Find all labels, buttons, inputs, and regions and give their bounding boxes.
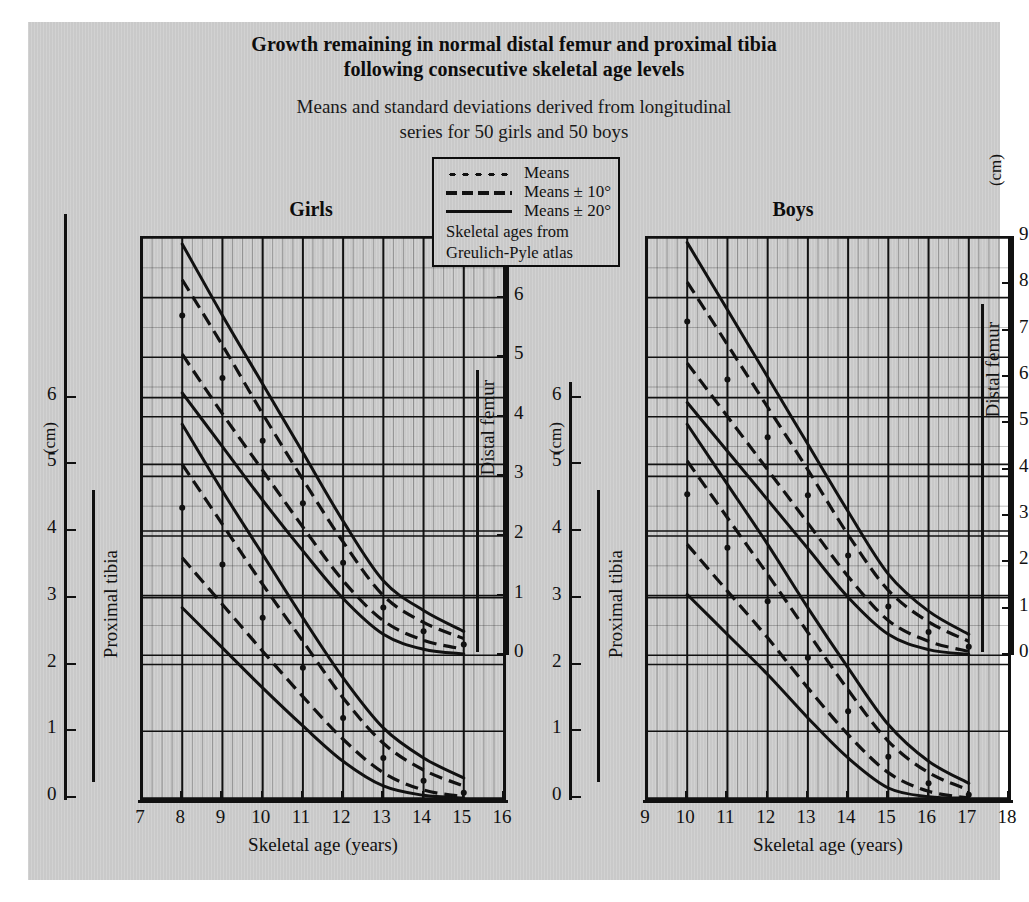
left-axis-tick	[572, 529, 581, 531]
x-axis-tick-label: 10	[245, 806, 277, 828]
x-axis-tick-label: 7	[124, 806, 156, 828]
x-axis-tick	[967, 791, 969, 800]
right-axis-tick	[497, 534, 506, 536]
left-axis-tick	[67, 396, 76, 398]
left-axis-tick-label: 0	[552, 783, 562, 805]
x-axis-tick-label: 10	[669, 806, 701, 828]
right-axis-tick-label: 5	[1019, 408, 1029, 430]
left-axis-tick	[67, 663, 76, 665]
x-axis-tick	[140, 791, 142, 800]
figure-subtitle-line-1: Means and standard deviations derived fr…	[28, 94, 1000, 119]
x-axis-tick	[1007, 791, 1009, 800]
left-axis-tick	[572, 663, 581, 665]
right-axis-tick	[497, 653, 506, 655]
left-axis-tick-label: 1	[552, 716, 562, 738]
left-axis-tick	[572, 396, 581, 398]
left-axis-tick-label: 2	[552, 650, 562, 672]
right-axis-tick-label: 1	[1019, 594, 1029, 616]
right-axis-tick-label: 4	[1019, 455, 1029, 477]
boys-curves	[647, 238, 1009, 798]
right-axis-tick	[497, 296, 506, 298]
figure-subtitle: Means and standard deviations derived fr…	[28, 94, 1000, 144]
x-axis-tick-label: 17	[951, 806, 983, 828]
right-axis-tick-label: 5	[514, 342, 524, 364]
x-axis-tick	[766, 791, 768, 800]
x-axis-tick	[846, 791, 848, 800]
legend-note-line-2: Greulich-Pyle atlas	[446, 242, 573, 263]
left-axis-tick	[572, 462, 581, 464]
panel-heading-boys: Boys	[728, 198, 858, 221]
boys-right-group-label: Distal femur	[982, 322, 1004, 418]
left-axis-tick	[572, 596, 581, 598]
x-axis-tick	[927, 791, 929, 800]
x-axis-tick-label: 18	[991, 806, 1023, 828]
figure-title: Growth remaining in normal distal femur …	[28, 32, 1000, 82]
left-axis-tick-label: 0	[47, 783, 57, 805]
x-axis-tick	[725, 791, 727, 800]
boys-proximal-tibia-brace	[597, 490, 600, 782]
right-axis-tick-label: 3	[514, 461, 524, 483]
x-axis-tick-label: 8	[164, 806, 196, 828]
left-axis-tick-label: 6	[552, 383, 562, 405]
right-axis-rule	[1011, 236, 1014, 655]
right-axis-tick	[1002, 468, 1011, 470]
right-axis-tick-label: 1	[514, 581, 524, 603]
legend-sample-solid-icon	[444, 203, 516, 221]
x-axis-tick-label: 11	[709, 806, 741, 828]
legend-label-means-plus-10: Means ± 10°	[524, 182, 611, 202]
x-axis-tick-label: 12	[325, 806, 357, 828]
right-axis-tick	[1002, 653, 1011, 655]
left-axis-tick	[67, 596, 76, 598]
left-axis-tick	[67, 529, 76, 531]
x-axis-tick	[806, 791, 808, 800]
right-axis-tick	[1002, 282, 1011, 284]
right-axis-tick	[1002, 607, 1011, 609]
x-axis-tick	[645, 791, 647, 800]
x-axis-tick-label: 14	[830, 806, 862, 828]
right-axis-tick	[1002, 236, 1011, 238]
left-axis-tick-label: 3	[552, 583, 562, 605]
x-axis-tick	[220, 791, 222, 800]
figure-page: Growth remaining in normal distal femur …	[28, 22, 1000, 880]
x-axis-tick	[301, 791, 303, 800]
x-axis-tick-label: 15	[870, 806, 902, 828]
right-axis-tick	[1002, 514, 1011, 516]
girls-left-group-label: Proximal tibia	[100, 550, 122, 658]
girls-outer-left-axis	[64, 214, 67, 800]
legend-box: Means Means ± 10° Means ± 20° Skeletal a…	[432, 157, 620, 267]
x-axis-tick-label: 16	[911, 806, 943, 828]
right-axis-tick-label: 7	[1019, 316, 1029, 338]
panel-heading-girls: Girls	[246, 198, 376, 221]
x-axis-tick	[502, 791, 504, 800]
right-axis-tick-label: 2	[1019, 547, 1029, 569]
x-axis-tick	[341, 791, 343, 800]
x-axis-tick-label: 9	[629, 806, 661, 828]
right-axis-tick-label: 0	[1019, 640, 1029, 662]
x-axis-tick-label: 13	[365, 806, 397, 828]
right-axis-tick-label: 4	[514, 402, 524, 424]
left-axis-tick-label: 3	[47, 583, 57, 605]
girls-right-group-label: Distal femur	[477, 380, 499, 476]
x-axis-tick-label: 12	[750, 806, 782, 828]
x-axis-tick-label: 15	[446, 806, 478, 828]
legend-label-means-plus-20: Means ± 20°	[524, 201, 611, 221]
right-axis-tick-label: 6	[514, 283, 524, 305]
right-axis-tick-label: 3	[1019, 501, 1029, 523]
x-axis-tick	[261, 791, 263, 800]
right-axis-tick	[497, 355, 506, 357]
right-axis-tick-label: 2	[514, 521, 524, 543]
x-axis-tick	[886, 791, 888, 800]
figure-title-line-1: Growth remaining in normal distal femur …	[28, 32, 1000, 57]
right-axis-tick-label: 9	[1019, 223, 1029, 245]
right-axis-tick-label: 8	[1019, 269, 1029, 291]
figure-subtitle-line-2: series for 50 girls and 50 boys	[28, 119, 1000, 144]
legend-label-means: Means	[524, 163, 569, 183]
right-axis-tick-label: 0	[514, 640, 524, 662]
left-axis-tick-label: 2	[47, 650, 57, 672]
boys-right-unit-label: (cm)	[986, 154, 1006, 186]
boys-plot-area	[645, 236, 1011, 800]
left-axis-tick	[67, 462, 76, 464]
legend-note-line-1: Skeletal ages from	[446, 221, 573, 242]
right-axis-tick	[1002, 421, 1011, 423]
x-axis-tick-label: 11	[285, 806, 317, 828]
